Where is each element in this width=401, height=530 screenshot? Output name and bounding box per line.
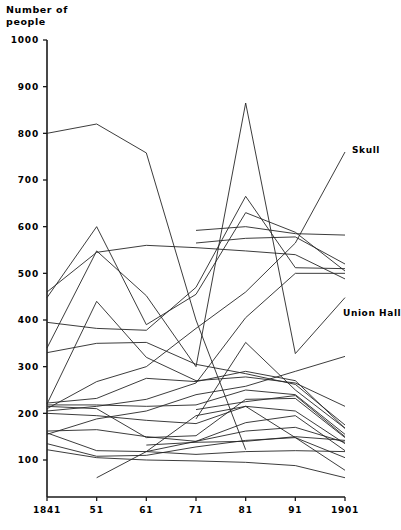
x-axis-tick-label: 81 xyxy=(239,505,253,515)
line-chart: Number of people 10020030040050060070080… xyxy=(0,0,401,530)
x-axis-tick-label: 1901 xyxy=(331,505,359,515)
series-line xyxy=(47,124,246,450)
series-line xyxy=(47,450,345,478)
annotation-group: SkullUnion Hall xyxy=(343,145,401,318)
x-axis-tick-label: 61 xyxy=(139,505,153,515)
y-axis-tick-label: 1000 xyxy=(11,35,39,45)
series-line xyxy=(47,196,345,330)
series-annotation-label: Union Hall xyxy=(343,308,401,318)
series-line xyxy=(146,451,345,455)
series-line xyxy=(196,237,345,264)
y-axis-tick-label: 400 xyxy=(18,315,39,325)
y-axis-tick-group: 1002003004005006007008009001000 xyxy=(11,35,47,465)
series-line xyxy=(47,301,345,406)
y-axis-tick-label: 200 xyxy=(18,409,39,419)
y-axis-tick-label: 100 xyxy=(18,455,39,465)
series-line xyxy=(47,406,345,443)
series-line xyxy=(47,245,345,292)
series-line xyxy=(47,213,345,325)
series-line xyxy=(47,103,345,367)
y-axis-tick-label: 900 xyxy=(18,82,39,92)
series-line xyxy=(47,342,345,425)
y-axis-tick-label: 600 xyxy=(18,222,39,232)
y-axis-tick-label: 500 xyxy=(18,269,39,279)
series-line xyxy=(47,390,345,434)
series-line xyxy=(47,398,345,437)
x-axis-tick-label: 91 xyxy=(288,505,302,515)
series-line xyxy=(146,437,345,445)
x-axis-tick-label: 51 xyxy=(90,505,104,515)
series-lines-group xyxy=(47,103,345,478)
series-line xyxy=(47,356,345,434)
y-axis-tick-label: 800 xyxy=(18,129,39,139)
x-axis-tick-group: 184151617181911901 xyxy=(33,497,359,515)
chart-plot-area: 1002003004005006007008009001000 18415161… xyxy=(0,0,401,530)
x-axis-tick-label: 71 xyxy=(189,505,203,515)
series-annotation-label: Skull xyxy=(352,145,380,155)
x-axis-tick-label: 1841 xyxy=(33,505,61,515)
y-axis-tick-label: 300 xyxy=(18,362,39,372)
y-axis-tick-label: 700 xyxy=(18,175,39,185)
